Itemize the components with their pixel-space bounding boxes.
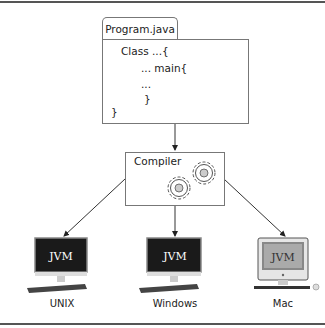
- code-line: }: [144, 93, 151, 105]
- unix-computer-icon: JVM: [25, 236, 105, 296]
- monitor-screen-text: JVM: [270, 251, 295, 264]
- code-line: ...: [141, 78, 151, 90]
- code-line: }: [111, 106, 118, 118]
- windows-computer-icon: JVM: [135, 236, 215, 296]
- code-line: Class ...{: [121, 45, 169, 57]
- program-code-box: Class ...{ ... main{ ... } }: [102, 39, 249, 124]
- compiler-box: Compiler: [125, 152, 225, 206]
- os-label-mac: Mac: [243, 298, 323, 309]
- monitor-screen-text: JVM: [48, 250, 73, 263]
- monitor-screen-text: JVM: [162, 250, 187, 263]
- mac-computer-icon: JVM: [250, 236, 325, 296]
- gears-icon: [126, 153, 224, 205]
- os-label-windows: Windows: [135, 298, 215, 309]
- code-line: ... main{: [141, 62, 187, 74]
- program-file-tab: Program.java: [102, 17, 178, 40]
- os-label-unix: UNIX: [22, 298, 102, 309]
